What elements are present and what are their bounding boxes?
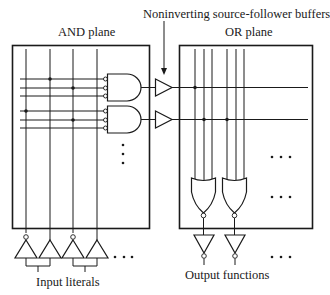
output-inverter-1 xyxy=(194,235,214,265)
or-plane-label: OR plane xyxy=(225,25,273,40)
and-gate-1 xyxy=(104,74,156,101)
or-plane-rows xyxy=(172,88,308,120)
input-bracket-1 xyxy=(26,266,50,272)
output-ellipsis xyxy=(271,256,292,259)
input-ellipsis xyxy=(114,256,134,259)
input-buffer-2 xyxy=(39,240,61,266)
nor-gate-2 xyxy=(223,178,247,235)
and-plane-vertical-ellipsis xyxy=(122,144,125,165)
input-buffer-3-inverting xyxy=(62,235,84,266)
input-bracket-2 xyxy=(73,266,97,272)
output-inverter-2 xyxy=(225,235,245,265)
buffers-arrow xyxy=(161,21,167,75)
or-plane-ellipsis-1 xyxy=(271,156,292,159)
source-follower-buffer-2 xyxy=(156,111,173,128)
or-plane-columns xyxy=(195,49,244,183)
input-buffer-4 xyxy=(86,240,108,266)
output-functions-label: Output functions xyxy=(185,268,269,283)
or-plane-ellipsis-2 xyxy=(271,196,292,199)
and-gate-2 xyxy=(104,106,156,133)
or-plane-connections xyxy=(193,86,229,122)
and-plane-columns xyxy=(26,49,97,241)
source-follower-buffer-1 xyxy=(156,79,173,96)
and-plane-box xyxy=(13,46,150,229)
input-literals-label: Input literals xyxy=(36,275,100,290)
nor-gate-1 xyxy=(192,178,216,235)
and-plane-label: AND plane xyxy=(58,25,115,40)
and-plane-rows xyxy=(20,79,104,128)
input-buffer-1-inverting xyxy=(15,235,37,266)
buffers-label: Noninverting source-follower buffers xyxy=(143,7,330,22)
